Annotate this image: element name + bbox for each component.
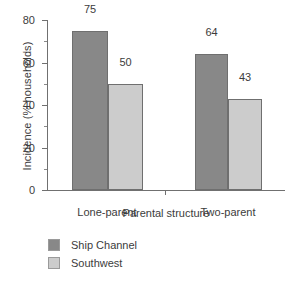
y-minor-tick-30 xyxy=(44,126,47,127)
y-tick-label-60: 60 xyxy=(23,57,35,69)
y-axis-line xyxy=(47,20,48,190)
y-tick-60: 60 xyxy=(42,63,47,64)
bar-southwest-lone-parent[interactable] xyxy=(108,84,143,190)
y-tick-40: 40 xyxy=(42,105,47,106)
y-tick-label-20: 20 xyxy=(23,142,35,154)
bar-southwest-two-parent[interactable] xyxy=(228,99,262,190)
y-minor-tick-50 xyxy=(44,84,47,85)
legend-swatch-icon-southwest xyxy=(48,257,60,269)
y-minor-tick-70 xyxy=(44,41,47,42)
bar-ship-channel-two-parent[interactable] xyxy=(195,54,228,190)
bar-value-southwest-two-parent: 43 xyxy=(239,71,251,83)
bar-value-southwest-lone-parent: 50 xyxy=(119,56,131,68)
legend-item-southwest[interactable]: Southwest xyxy=(48,254,137,272)
y-tick-label-0: 0 xyxy=(29,184,35,196)
y-tick-80: 80 xyxy=(42,20,47,21)
x-axis-line xyxy=(47,190,285,191)
bar-value-ship-channel-lone-parent: 75 xyxy=(84,3,96,15)
bar-chart: Incidence (% households) 0 20 40 60 80 7… xyxy=(0,0,300,282)
y-tick-0: 0 xyxy=(42,190,47,191)
bar-ship-channel-lone-parent[interactable] xyxy=(72,31,108,190)
bar-value-ship-channel-two-parent: 64 xyxy=(205,26,217,38)
legend-label-ship-channel: Ship Channel xyxy=(71,239,137,251)
y-tick-label-40: 40 xyxy=(23,99,35,111)
legend-swatch-icon-ship-channel xyxy=(48,239,60,251)
y-tick-label-80: 80 xyxy=(23,14,35,26)
y-minor-tick-10 xyxy=(44,169,47,170)
y-tick-20: 20 xyxy=(42,148,47,149)
x-axis-title: Parental structure xyxy=(47,207,285,219)
legend-item-ship-channel[interactable]: Ship Channel xyxy=(48,236,137,254)
x-tick-separator xyxy=(165,190,166,195)
legend: Ship Channel Southwest xyxy=(48,236,137,272)
legend-label-southwest: Southwest xyxy=(71,257,122,269)
plot-area: 0 20 40 60 80 75 50 64 43 Lone-parent Tw… xyxy=(47,20,285,190)
